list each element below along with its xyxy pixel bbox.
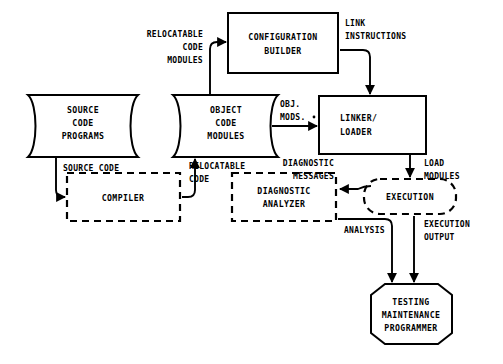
- data-flow-diagram: SOURCE CODE PROGRAMS OBJECT CODE MODULES…: [0, 0, 503, 364]
- edge-label-relocatable-code-modules-line3: MODULES: [167, 56, 203, 65]
- edge-label-analysis: ANALYSIS: [344, 226, 385, 235]
- node-label-linker-loader-line1: LINKER/: [340, 113, 377, 123]
- node-label-testing-maintenance-programmer-line2: MAINTENANCE: [382, 310, 441, 320]
- node-label-testing-maintenance-programmer-line3: PROGRAMMER: [384, 323, 437, 333]
- node-object-code-modules[interactable]: OBJECT CODE MODULES: [173, 95, 278, 157]
- obj-mods-tick-dot: [313, 116, 316, 119]
- node-label-source-code-programs-line3: PROGRAMS: [62, 131, 105, 141]
- node-label-source-code-programs-line2: CODE: [72, 118, 93, 128]
- node-source-code-programs[interactable]: SOURCE CODE PROGRAMS: [28, 95, 138, 157]
- node-label-diagnostic-analyzer-line2: ANALYZER: [263, 199, 306, 209]
- edge-label-obj-mods-line2: MODS.: [280, 113, 306, 122]
- edge-execution-output: EXECUTION OUTPUT: [414, 216, 470, 282]
- edge-link-instructions: LINK INSTRUCTIONS: [340, 19, 406, 94]
- node-execution[interactable]: EXECUTION: [364, 179, 456, 214]
- node-label-testing-maintenance-programmer-line1: TESTING: [392, 297, 429, 307]
- node-compiler[interactable]: COMPILER: [67, 173, 180, 221]
- node-label-object-code-modules-line2: CODE: [215, 118, 236, 128]
- node-label-linker-loader-line2: LOADER: [340, 127, 372, 137]
- edge-label-execution-output-line1: EXECUTION: [424, 220, 470, 229]
- node-configuration-builder[interactable]: CONFIGURATION BUILDER: [228, 13, 338, 73]
- node-label-execution: EXECUTION: [386, 192, 434, 202]
- edge-label-diagnostic-messages-line2: MESSAGES: [293, 172, 334, 181]
- edge-obj-mods: OBJ. MODS.: [272, 100, 317, 126]
- node-testing-maintenance-programmer[interactable]: TESTING MAINTENANCE PROGRAMMER: [371, 284, 452, 344]
- edge-label-relocatable-code-modules-line2: CODE: [183, 43, 203, 52]
- edge-label-link-instructions-line2: INSTRUCTIONS: [345, 32, 406, 41]
- node-label-source-code-programs-line1: SOURCE: [67, 105, 99, 115]
- edge-label-source-code: SOURCE CODE: [63, 164, 119, 173]
- edge-label-obj-mods-line1: OBJ.: [280, 100, 300, 109]
- edge-label-relocatable-code-modules-line1: RELOCATABLE: [147, 30, 203, 39]
- edge-label-link-instructions-line1: LINK: [345, 19, 365, 28]
- node-label-object-code-modules-line1: OBJECT: [210, 105, 242, 115]
- node-linker-loader[interactable]: LINKER/ LOADER: [319, 96, 426, 154]
- edge-label-load-modules-line2: MODULES: [424, 172, 460, 181]
- node-label-diagnostic-analyzer-line1: DIAGNOSTIC: [257, 186, 310, 196]
- diagram-canvas: SOURCE CODE PROGRAMS OBJECT CODE MODULES…: [0, 0, 503, 364]
- edge-label-diagnostic-messages-line1: DIAGNOSTIC: [283, 159, 334, 168]
- node-label-compiler: COMPILER: [102, 193, 145, 203]
- node-label-configuration-builder-line1: CONFIGURATION: [248, 32, 317, 42]
- edge-analysis: ANALYSIS: [338, 219, 392, 282]
- node-label-configuration-builder-line2: BUILDER: [264, 46, 301, 56]
- edge-label-relocatable-code-line1: RELOCATABLE: [189, 162, 245, 171]
- edge-relocatable-code-modules: RELOCATABLE CODE MODULES: [147, 30, 226, 94]
- edge-label-relocatable-code-line2: CODE: [189, 175, 209, 184]
- edge-load-modules: LOAD MODULES: [410, 155, 460, 181]
- edge-label-execution-output-line2: OUTPUT: [424, 233, 455, 242]
- edge-label-load-modules-line1: LOAD: [424, 159, 444, 168]
- node-label-object-code-modules-line3: MODULES: [207, 131, 244, 141]
